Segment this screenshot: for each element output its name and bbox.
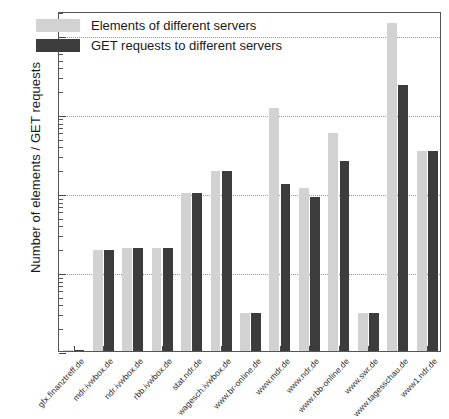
legend-label-elements: Elements of different servers	[91, 18, 256, 33]
legend-item-get-requests: GET requests to different servers	[36, 36, 282, 55]
y-axis-title: Number of elements / GET requests	[28, 38, 43, 298]
legend-swatch-get-requests	[36, 39, 80, 52]
x-axis-labels: gfx.finanztreff.demdr.ivwbox.dendr.ivwbo…	[58, 0, 441, 410]
legend-item-elements: Elements of different servers	[36, 16, 282, 35]
legend-label-get-requests: GET requests to different servers	[91, 38, 282, 53]
chart-legend: Elements of different servers GET reques…	[36, 16, 282, 56]
legend-swatch-elements	[36, 19, 80, 32]
x-tick-label: wagesch.ivwbox.de	[175, 356, 233, 417]
